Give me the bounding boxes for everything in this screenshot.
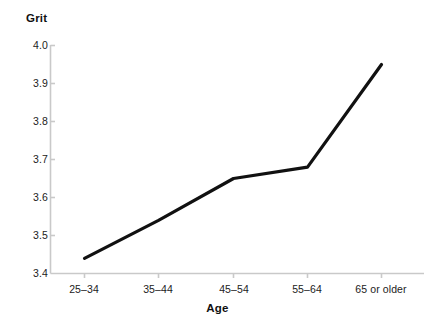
x-axis-title: Age [0, 302, 435, 314]
plot-area [0, 0, 435, 326]
data-series-line [85, 65, 382, 259]
line-chart: Grit 4.0 3.9 3.8 3.7 3.6 3.5 3.4 25–34 3… [0, 0, 435, 326]
